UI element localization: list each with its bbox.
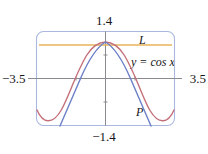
- figure-canvas: 1.4 −1.4 −3.5 3.5 L P y = cos x: [0, 0, 208, 154]
- plot-area: [0, 0, 208, 154]
